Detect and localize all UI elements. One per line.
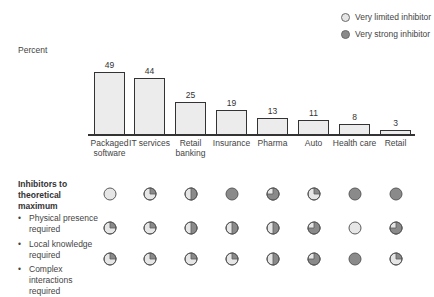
legend-item-strong: Very strong inhibitor [341, 29, 430, 39]
bar-value-label: 11 [294, 108, 334, 118]
row-label-text: Local knowledge required [29, 239, 98, 261]
full-harvey-ball-icon [348, 187, 362, 201]
category-label: Retail [371, 138, 421, 148]
half-harvey-ball-icon [184, 221, 198, 235]
y-axis-label: Percent [18, 45, 47, 55]
bar-value-label: 8 [335, 112, 375, 122]
quarter-harvey-ball-icon [184, 252, 198, 266]
bar-value-label: 25 [171, 90, 211, 100]
row-label-local: • Local knowledge required [18, 239, 98, 261]
full-harvey-ball-icon [348, 252, 362, 266]
empty-harvey-ball-icon [348, 221, 362, 235]
bar-value-label: 3 [376, 118, 416, 128]
quarter-harvey-ball-icon [143, 187, 157, 201]
legend-label: Very limited inhibitor [355, 12, 431, 22]
bar [298, 120, 329, 134]
half-harvey-ball-icon [225, 221, 239, 235]
bar [134, 78, 165, 134]
three-quarter-harvey-ball-icon [389, 221, 403, 235]
bullet: • [18, 239, 29, 261]
bar [257, 118, 288, 134]
full-harvey-ball-icon [225, 187, 239, 201]
quarter-harvey-ball-icon [307, 187, 321, 201]
bar [339, 124, 370, 134]
three-quarter-harvey-ball-icon [307, 221, 321, 235]
full-harvey-ball-icon [341, 30, 350, 39]
quarter-harvey-ball-icon [143, 221, 157, 235]
half-harvey-ball-icon [266, 252, 280, 266]
quarter-harvey-ball-icon [389, 252, 403, 266]
bar-value-label: 13 [253, 106, 293, 116]
three-quarter-harvey-ball-icon [307, 252, 321, 266]
row-label-text: Complex interactions required [29, 264, 88, 297]
legend-label: Very strong inhibitor [355, 29, 430, 39]
empty-harvey-ball-icon [103, 187, 117, 201]
bullet: • [18, 213, 29, 235]
half-harvey-ball-icon [266, 221, 280, 235]
legend-item-limited: Very limited inhibitor [341, 12, 431, 22]
inhibitors-title: Inhibitors to theoretical maximum [18, 179, 98, 212]
three-quarter-harvey-ball-icon [266, 187, 280, 201]
bar [94, 72, 125, 134]
bar-value-label: 49 [90, 60, 130, 70]
bullet: • [18, 264, 29, 297]
quarter-harvey-ball-icon [225, 252, 239, 266]
bar [216, 110, 247, 134]
half-harvey-ball-icon [184, 187, 198, 201]
row-label-text: Physical presence required [29, 213, 98, 235]
x-axis-baseline [88, 134, 415, 136]
bar [175, 102, 206, 134]
quarter-harvey-ball-icon [143, 252, 157, 266]
row-label-complex: • Complex interactions required [18, 264, 88, 297]
quarter-harvey-ball-icon [103, 221, 117, 235]
quarter-harvey-ball-icon [103, 252, 117, 266]
bar-value-label: 44 [130, 66, 170, 76]
full-harvey-ball-icon [389, 187, 403, 201]
empty-harvey-ball-icon [341, 13, 350, 22]
row-label-physical: • Physical presence required [18, 213, 98, 235]
bar-value-label: 19 [212, 98, 252, 108]
